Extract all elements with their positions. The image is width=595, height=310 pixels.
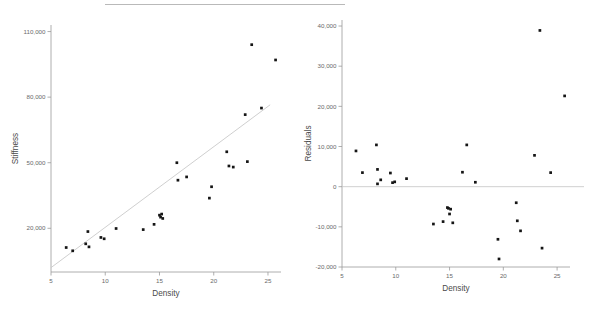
data-point: [563, 95, 566, 98]
y-tick-label: -20,000: [316, 263, 338, 270]
y-tick-label: 30,000: [318, 62, 337, 69]
data-point: [175, 161, 178, 164]
data-point: [103, 237, 106, 240]
data-point: [185, 176, 188, 179]
data-point: [519, 230, 522, 233]
data-point: [497, 238, 500, 241]
data-point: [160, 213, 163, 216]
data-point: [225, 150, 228, 153]
data-point: [549, 171, 552, 174]
y-tick-label: 50,000: [27, 159, 46, 166]
x-tick-label: 10: [102, 277, 109, 284]
data-point: [228, 165, 231, 168]
stiffness-scatter-plot: 20,00050,00080,000110,000510152025Densit…: [0, 0, 298, 310]
y-tick-label: 80,000: [27, 93, 46, 100]
x-tick-label: 20: [500, 272, 507, 279]
y-tick-label: -10,000: [316, 223, 338, 230]
data-point: [244, 113, 247, 116]
data-point: [153, 223, 156, 226]
data-point: [376, 168, 379, 171]
x-tick-label: 25: [265, 277, 272, 284]
data-point: [465, 144, 468, 147]
data-point: [393, 181, 396, 184]
data-point: [210, 185, 213, 188]
y-axis-title: Residuals: [304, 126, 313, 162]
data-point: [533, 154, 536, 157]
data-point: [208, 197, 211, 200]
y-tick-label: 0: [333, 183, 337, 190]
data-point: [274, 59, 277, 62]
data-point: [87, 230, 90, 233]
data-point: [161, 217, 164, 220]
y-tick-label: 20,000: [27, 224, 46, 231]
chart-panel-residuals: -20,000-10,000010,00020,00030,00040,0005…: [298, 0, 595, 310]
data-point: [376, 183, 379, 186]
data-point: [246, 160, 249, 163]
x-tick-label: 20: [210, 277, 217, 284]
y-tick-label: 20,000: [318, 103, 337, 110]
data-point: [375, 144, 378, 147]
data-point: [84, 242, 87, 245]
y-tick-label: 110,000: [24, 28, 46, 35]
x-axis-title: Density: [442, 284, 470, 293]
data-point: [232, 166, 235, 169]
data-point: [405, 177, 408, 180]
data-point: [361, 171, 364, 174]
data-point: [379, 178, 382, 181]
y-axis-title: Stiffness: [11, 133, 20, 164]
data-point: [260, 107, 263, 110]
data-point: [177, 179, 180, 182]
y-tick-label: 10,000: [318, 143, 337, 150]
figure-page: 20,00050,00080,000110,000510152025Densit…: [0, 0, 595, 310]
x-tick-label: 25: [554, 272, 561, 279]
data-point: [448, 213, 451, 216]
y-tick-label: 40,000: [318, 22, 337, 29]
x-tick-label: 10: [392, 272, 399, 279]
data-point: [449, 208, 452, 211]
data-point: [88, 246, 91, 249]
x-axis-title: Density: [152, 289, 180, 298]
residuals-scatter-plot: -20,000-10,000010,00020,00030,00040,0005…: [298, 0, 595, 310]
data-point: [539, 29, 542, 32]
data-point: [498, 258, 501, 261]
chart-panel-stiffness: 20,00050,00080,000110,000510152025Densit…: [0, 0, 298, 310]
data-point: [451, 221, 454, 224]
data-point: [432, 223, 435, 226]
data-point: [250, 43, 253, 46]
x-tick-label: 15: [446, 272, 453, 279]
data-point: [355, 150, 358, 153]
data-point: [115, 227, 118, 230]
x-tick-label: 5: [340, 272, 344, 279]
data-point: [442, 220, 445, 223]
data-point: [515, 201, 518, 204]
data-point: [461, 171, 464, 174]
x-tick-label: 15: [156, 277, 163, 284]
data-point: [142, 228, 145, 231]
data-point: [389, 172, 392, 175]
x-tick-label: 5: [49, 277, 53, 284]
data-point: [541, 247, 544, 250]
data-point: [474, 181, 477, 184]
data-point: [100, 236, 103, 239]
regression-fit-line: [51, 105, 270, 268]
data-point: [65, 246, 68, 249]
data-point: [516, 219, 519, 222]
data-point: [71, 249, 74, 252]
